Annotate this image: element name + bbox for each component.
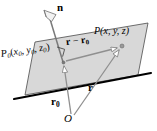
label-vector-r0: r0 bbox=[51, 96, 60, 109]
diagram-canvas bbox=[0, 0, 157, 131]
label-normal-vector-n: n bbox=[57, 2, 63, 13]
point-P0-dot bbox=[62, 61, 65, 64]
point-P-dot bbox=[120, 44, 124, 48]
label-point-P: P(x, y, z) bbox=[94, 26, 129, 36]
label-vector-r: r bbox=[88, 82, 93, 93]
label-origin: O bbox=[64, 113, 72, 124]
plane-vector-diagram: n P(x, y, z) P0(x0, y0, z0) r − r0 r r0 … bbox=[0, 0, 157, 131]
normal-arrowhead-icon bbox=[44, 10, 56, 21]
